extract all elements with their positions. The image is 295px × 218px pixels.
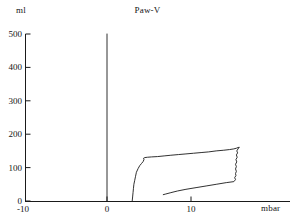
x-tick-label: 10: [178, 204, 204, 214]
y-axis-ticks: [26, 34, 31, 201]
x-tick-label: -10: [10, 204, 36, 214]
y-tick-label: 400: [0, 62, 22, 72]
chart-title: Paw-V: [0, 5, 295, 15]
x-tick-label: 0: [94, 204, 120, 214]
x-axis-ticks: [107, 197, 191, 202]
y-tick-label: 300: [0, 96, 22, 106]
y-tick-label: 100: [0, 163, 22, 173]
chart-series-group: [107, 34, 239, 201]
y-tick-label: 500: [0, 29, 22, 39]
chart-axes: [25, 34, 290, 202]
y-tick-label: 200: [0, 129, 22, 139]
chart-line-paw-v-loop: [132, 147, 239, 201]
y-axis-label: ml: [16, 5, 26, 15]
paw-v-chart: [0, 0, 295, 218]
x-axis-label: mbar: [261, 203, 280, 213]
